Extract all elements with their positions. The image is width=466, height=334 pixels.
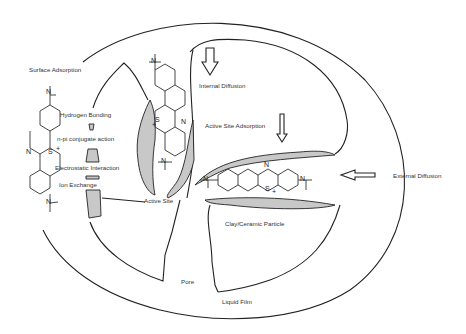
- label-electrostatic-interaction: Electrostatic Interaction: [55, 164, 119, 171]
- interaction-bar-3: [86, 176, 99, 179]
- active-site-adsorption-arrow-icon: [277, 114, 287, 142]
- adsorption-diagram: N N S + N N N S + N N N S + N Surface Ad…: [0, 0, 466, 334]
- atom-n-center-horizontal: N: [264, 161, 269, 168]
- label-hydrogen-bonding: Hydrogen Bonding: [60, 111, 111, 118]
- particle-lower-boundary: [218, 205, 340, 292]
- shaded-region-bottom-pore: [205, 198, 335, 209]
- label-active-site-adsorption: Active Site Adsorption: [205, 122, 265, 129]
- atom-n-left: N: [26, 148, 31, 155]
- interaction-bar-2: [86, 149, 99, 162]
- label-pore: Pore: [181, 278, 194, 285]
- label-internal-diffusion: Internal Diffusion: [199, 82, 245, 89]
- atom-n-top-left: N: [46, 88, 51, 95]
- atom-n-bottom-middle: N: [161, 157, 166, 164]
- charge-plus-horizontal: +: [272, 188, 276, 195]
- label-active-site: Active Site: [144, 197, 173, 204]
- label-surface-adsorption: Surface Adsorption: [29, 66, 81, 73]
- active-site-pointer: [102, 198, 145, 202]
- internal-diffusion-arrow-icon: [202, 48, 218, 75]
- pore-left-wall: [90, 200, 180, 281]
- interaction-bar-1: [89, 124, 94, 130]
- label-external-diffusion: External Diffusion: [393, 172, 441, 179]
- atom-n-middle: N: [181, 118, 186, 125]
- shaded-region-crack: [167, 120, 194, 198]
- atom-s-left: S: [48, 148, 53, 155]
- shaded-region-ion-exchange: [86, 190, 101, 218]
- label-ion-exchange: Ion Exchange: [59, 181, 97, 188]
- atom-n-bottom-left: N: [46, 198, 51, 205]
- atom-n-right-horizontal: N: [300, 175, 305, 182]
- atom-n-left-horizontal: N: [203, 175, 208, 182]
- label-clay-ceramic-particle: Clay/Ceramic Particle: [225, 220, 284, 227]
- left-particle-top: [93, 63, 148, 108]
- shaded-region-left-wall: [137, 100, 155, 195]
- atom-s-horizontal: S: [265, 185, 270, 192]
- label-liquid-film: Liquid Film: [222, 298, 252, 305]
- charge-plus-middle: +: [152, 121, 156, 128]
- methylene-blue-middle: [149, 54, 185, 170]
- pore-right-wall: [208, 205, 218, 292]
- external-diffusion-arrow-icon: [341, 170, 375, 180]
- charge-plus-left: +: [56, 145, 60, 152]
- label-n-pi-conjugate-action: n-pi conjugate action: [57, 135, 114, 142]
- atom-n-top-middle: N: [151, 57, 156, 64]
